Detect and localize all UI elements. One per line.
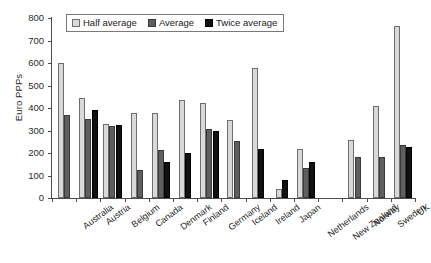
bar <box>58 63 64 198</box>
y-axis-tick-label: 0 <box>4 192 44 203</box>
x-axis-tick <box>76 198 77 202</box>
bar <box>379 157 385 198</box>
bar <box>213 131 219 199</box>
bar <box>373 106 379 198</box>
legend-item-label: Twice average <box>216 17 277 28</box>
x-axis-tick <box>367 198 368 202</box>
bar <box>137 170 143 198</box>
x-axis-label: Ireland <box>273 202 301 227</box>
bar <box>64 115 70 198</box>
x-axis-tick <box>197 198 198 202</box>
bar <box>303 168 309 198</box>
bar <box>158 150 164 198</box>
bar-group <box>79 18 98 198</box>
x-axis-tick <box>318 198 319 202</box>
bar <box>152 113 158 198</box>
bar <box>400 145 406 198</box>
bar-group <box>152 18 171 198</box>
bar <box>164 162 170 198</box>
y-axis-tick-label: 600 <box>4 57 44 68</box>
bar <box>179 100 185 198</box>
x-axis-tick <box>173 198 174 202</box>
bar-chart: Euro PPPs 0100200300400500600700800 Aust… <box>0 0 431 263</box>
x-axis-label: Japan <box>297 202 323 225</box>
bar <box>252 68 258 198</box>
bar <box>297 149 303 198</box>
legend-swatch-avg-icon <box>148 19 156 27</box>
y-axis-tick-label: 700 <box>4 35 44 46</box>
plot-area <box>52 18 415 198</box>
chart-legend: Half averageAverageTwice average <box>66 14 284 32</box>
legend-item-label: Average <box>159 17 194 28</box>
y-axis-tick-label: 100 <box>4 170 44 181</box>
x-axis-tick <box>246 198 247 202</box>
bar <box>79 98 85 198</box>
x-axis-tick <box>270 198 271 202</box>
x-axis-line <box>51 198 415 199</box>
legend-item: Twice average <box>205 17 277 28</box>
bar-group <box>103 18 122 198</box>
legend-item: Average <box>148 17 194 28</box>
bar-group <box>200 18 219 198</box>
bar <box>116 125 122 198</box>
bar <box>276 189 282 198</box>
bar <box>309 162 315 198</box>
y-axis-tick-label: 500 <box>4 80 44 91</box>
bar <box>282 180 288 198</box>
bar <box>355 157 361 198</box>
bar <box>227 120 233 198</box>
bar <box>103 124 109 198</box>
bar-group <box>131 18 143 198</box>
bar-group <box>373 18 385 198</box>
bar-group <box>394 18 413 198</box>
bar-group <box>179 18 191 198</box>
bar <box>92 110 98 198</box>
y-axis-tick-label: 800 <box>4 12 44 23</box>
x-axis-tick <box>149 198 150 202</box>
x-axis-tick <box>221 198 222 202</box>
bar <box>406 147 412 198</box>
bar <box>131 113 137 198</box>
legend-swatch-half-icon <box>72 19 80 27</box>
bar <box>348 140 354 199</box>
legend-item: Half average <box>72 17 137 28</box>
x-axis-tick <box>100 198 101 202</box>
bar <box>200 103 206 198</box>
bar <box>85 119 91 198</box>
x-axis-tick <box>415 198 416 202</box>
bar <box>234 141 240 198</box>
bar <box>185 153 191 198</box>
bar <box>206 129 212 198</box>
x-axis-tick <box>52 198 53 202</box>
legend-item-label: Half average <box>83 17 137 28</box>
y-axis-tick-label: 400 <box>4 102 44 113</box>
bar-group <box>348 18 360 198</box>
x-axis-tick <box>342 198 343 202</box>
bar-group <box>58 18 70 198</box>
y-axis-tick-label: 200 <box>4 147 44 158</box>
bar-group <box>276 18 288 198</box>
y-axis-tick-label: 300 <box>4 125 44 136</box>
bar <box>258 149 264 198</box>
bar <box>109 126 115 198</box>
bar-group <box>252 18 264 198</box>
bar-group <box>297 18 316 198</box>
bar-group <box>227 18 239 198</box>
legend-swatch-twice-icon <box>205 19 213 27</box>
bar <box>394 26 400 198</box>
